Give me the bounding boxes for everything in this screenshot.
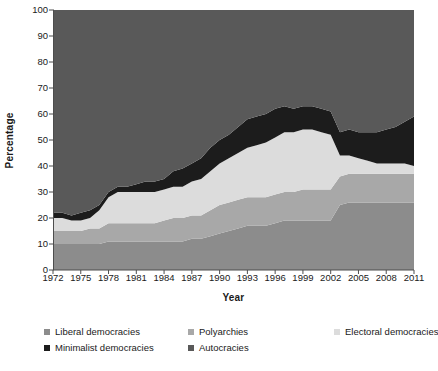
legend-item[interactable]: Liberal democracies <box>44 326 140 337</box>
x-tick-label: 2008 <box>371 273 401 283</box>
y-tick-label: 100 <box>22 5 48 15</box>
legend-item[interactable]: Autocracies <box>188 342 249 353</box>
legend-swatch-icon <box>188 329 194 335</box>
x-tick-label: 2005 <box>343 273 373 283</box>
legend-swatch-icon <box>44 345 50 351</box>
legend-item-label: Liberal democracies <box>55 326 140 337</box>
y-tick-label: 30 <box>22 187 48 197</box>
y-axis-title: Percentage <box>2 0 18 280</box>
x-tick-label: 2011 <box>399 273 429 283</box>
x-tick-label: 1972 <box>38 273 68 283</box>
x-tick-label: 1981 <box>121 273 151 283</box>
legend-item-label: Electoral democracies <box>345 326 438 337</box>
x-tick-label: 1993 <box>232 273 262 283</box>
y-tick-label: 10 <box>22 239 48 249</box>
legend-item[interactable]: Electoral democracies <box>334 326 438 337</box>
x-tick-label: 1978 <box>94 273 124 283</box>
legend-item[interactable]: Polyarchies <box>188 326 248 337</box>
x-tick-label: 2002 <box>316 273 346 283</box>
y-tick-label: 20 <box>22 213 48 223</box>
plot-svg <box>53 10 414 270</box>
legend-swatch-icon <box>188 345 194 351</box>
legend-swatch-icon <box>44 329 50 335</box>
legend-item-label: Autocracies <box>199 342 249 353</box>
plot-area <box>53 10 414 270</box>
y-tick-label: 80 <box>22 57 48 67</box>
legend-item[interactable]: Minimalist democracies <box>44 342 154 353</box>
y-tick-label: 50 <box>22 135 48 145</box>
legend-swatch-icon <box>334 329 340 335</box>
x-tick-label: 1987 <box>177 273 207 283</box>
x-tick-label: 1975 <box>66 273 96 283</box>
x-tick-label: 1996 <box>260 273 290 283</box>
y-axis-ticks: 0102030405060708090100 <box>20 0 48 280</box>
x-tick-label: 1999 <box>288 273 318 283</box>
x-tick-label: 1984 <box>149 273 179 283</box>
x-axis-ticks: 1972197519781981198419871990199319961999… <box>53 273 414 289</box>
x-axis-title: Year <box>53 292 414 303</box>
x-tick-label: 1990 <box>205 273 235 283</box>
legend-item-label: Polyarchies <box>199 326 248 337</box>
y-tick-label: 70 <box>22 83 48 93</box>
y-tick-label: 40 <box>22 161 48 171</box>
y-tick-label: 90 <box>22 31 48 41</box>
y-axis-title-label: Percentage <box>5 112 16 168</box>
chart-legend: Liberal democraciesPolyarchiesElectoral … <box>44 326 428 360</box>
y-tick-label: 60 <box>22 109 48 119</box>
legend-item-label: Minimalist democracies <box>55 342 154 353</box>
